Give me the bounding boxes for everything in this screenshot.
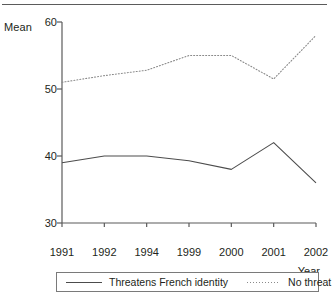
x-axis-tick-label: 1999 (172, 247, 206, 258)
data-series-group (62, 35, 316, 182)
series-line-no-threat (62, 35, 316, 82)
x-axis-tick-label: 2002 (299, 247, 333, 258)
y-axis-ticks (57, 22, 62, 223)
legend-line-solid-icon (66, 279, 102, 286)
plot-area: Mean 30405060 19911992199419992000200120… (0, 10, 329, 235)
legend-line-dotted-icon (245, 279, 281, 286)
chart-canvas (0, 10, 329, 246)
x-axis-tick-label: 1992 (87, 247, 121, 258)
x-axis-ticks (62, 223, 316, 227)
chart-legend: Threatens French identity No threat (56, 272, 319, 292)
x-axis-tick-labels: 1991199219941999200020012002 (0, 247, 329, 261)
axis-lines (62, 22, 316, 223)
legend-label: No threat (288, 276, 331, 288)
legend-entry-threatens-french-identity: Threatens French identity (66, 276, 228, 288)
series-line-threatens-french-identity (62, 143, 316, 183)
legend-entry-no-threat: No threat (245, 276, 331, 288)
x-axis-tick-label: 2001 (257, 247, 291, 258)
x-axis-tick-label: 1994 (130, 247, 164, 258)
legend-label: Threatens French identity (109, 276, 228, 288)
x-axis-tick-label: 2000 (214, 247, 248, 258)
figure-top-rule (2, 4, 327, 5)
x-axis-tick-label: 1991 (45, 247, 79, 258)
